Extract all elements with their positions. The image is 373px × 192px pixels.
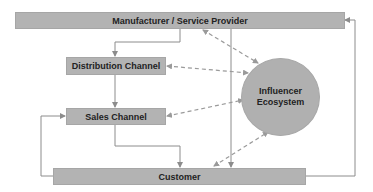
edge-customer-sales xyxy=(41,116,65,176)
customer-label: Customer xyxy=(158,172,200,182)
influencer-label-line2: Ecosystem xyxy=(257,97,305,108)
sales-channel-label: Sales Channel xyxy=(85,112,147,122)
sales-channel-node: Sales Channel xyxy=(66,108,166,125)
manufacturer-label: Manufacturer / Service Provider xyxy=(112,16,248,26)
edge-influencer-distribution xyxy=(167,66,248,73)
customer-node: Customer xyxy=(53,168,306,185)
manufacturer-node: Manufacturer / Service Provider xyxy=(15,12,345,29)
edge-sales-customer xyxy=(115,125,180,167)
distribution-channel-node: Distribution Channel xyxy=(66,57,166,75)
influencer-label-line1: Influencer xyxy=(259,86,302,97)
edge-manufacturer-distribution xyxy=(115,29,180,56)
distribution-channel-label: Distribution Channel xyxy=(72,61,161,71)
edge-influencer-customer xyxy=(214,132,268,166)
edge-influencer-sales xyxy=(167,100,243,116)
influencer-ecosystem-node: Influencer Ecosystem xyxy=(241,58,320,136)
